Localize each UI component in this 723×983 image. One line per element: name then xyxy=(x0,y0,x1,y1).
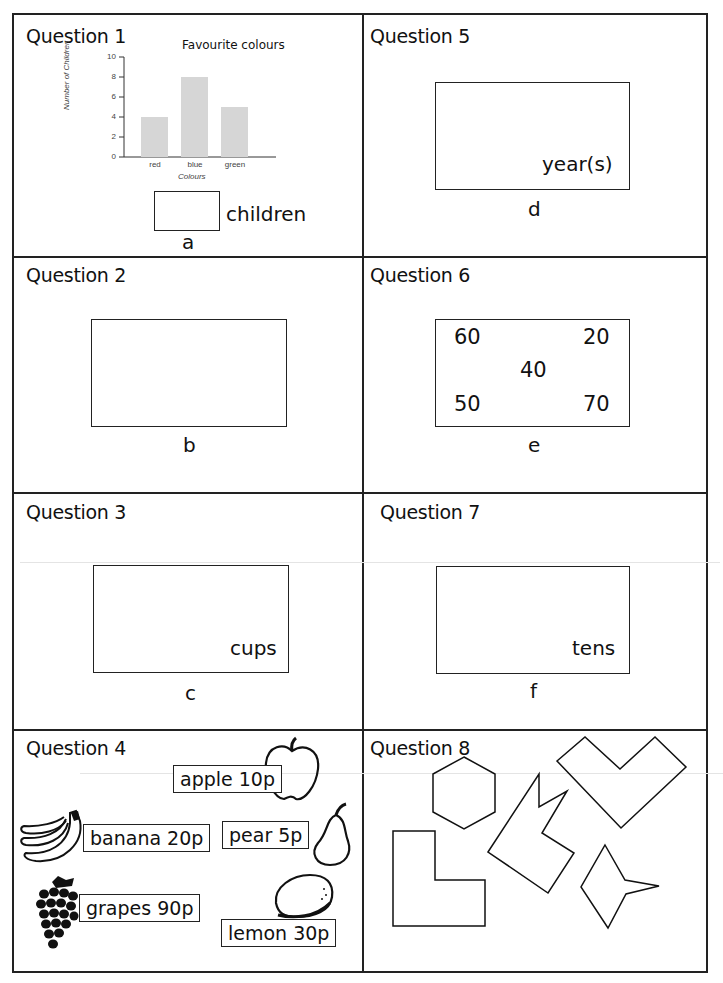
arrowhead-kite-shape xyxy=(581,845,659,928)
question-title: Question 6 xyxy=(370,264,470,286)
price-tag-apple: apple 10p xyxy=(173,765,282,793)
answer-letter: a xyxy=(182,230,194,254)
question-title: Question 4 xyxy=(26,737,126,759)
bar-green xyxy=(221,107,248,157)
answer-box-a[interactable] xyxy=(154,191,220,231)
question-1-cell: Question 1 Favourite colours Number of C… xyxy=(14,15,361,256)
grapes-icon xyxy=(36,876,82,952)
number-value: 20 xyxy=(583,325,610,349)
y-tick: 4 xyxy=(102,112,116,121)
unit-label: tens xyxy=(572,636,615,660)
shapes-canvas xyxy=(362,731,708,973)
x-tick: green xyxy=(220,160,250,169)
question-8-cell: Question 8 xyxy=(362,731,708,973)
y-tick: 6 xyxy=(102,92,116,101)
banana-icon xyxy=(18,809,88,867)
price-tag-banana: banana 20p xyxy=(83,824,210,852)
number-value: 50 xyxy=(454,392,481,416)
hexagon-shape xyxy=(433,757,495,829)
y-tick: 10 xyxy=(102,52,116,61)
unit-label: year(s) xyxy=(542,152,613,176)
question-6-cell: Question 6 60 20 40 50 70 e xyxy=(362,257,708,492)
l-shape xyxy=(393,831,485,926)
y-tick: 2 xyxy=(102,132,116,141)
x-axis-label: Colours xyxy=(178,172,206,181)
price-tag-pear: pear 5p xyxy=(222,821,309,849)
answer-box-b[interactable] xyxy=(91,319,287,427)
price-tag-lemon: lemon 30p xyxy=(221,919,336,947)
lemon-icon xyxy=(270,873,336,919)
answer-letter: b xyxy=(183,433,196,457)
question-title: Question 5 xyxy=(370,25,470,47)
price-tag-grapes: grapes 90p xyxy=(79,894,200,922)
y-tick: 8 xyxy=(102,72,116,81)
question-title: Question 2 xyxy=(26,264,126,286)
question-2-cell: Question 2 b xyxy=(14,257,361,492)
question-title: Question 7 xyxy=(380,501,480,523)
bar-blue xyxy=(181,77,208,157)
answer-letter: d xyxy=(528,197,541,221)
y-tick: 0 xyxy=(102,152,116,161)
number-value: 60 xyxy=(454,325,481,349)
pear-icon xyxy=(308,803,358,867)
notched-quadrilateral-shape xyxy=(488,774,574,893)
unit-label: children xyxy=(226,202,306,226)
bar-red xyxy=(141,117,168,157)
answer-letter: c xyxy=(185,681,196,705)
question-4-cell: Question 4 apple 10p banana 20p pear 5p … xyxy=(14,731,361,973)
question-5-cell: Question 5 year(s) d xyxy=(362,15,708,256)
number-value: 40 xyxy=(520,358,547,382)
unit-label: cups xyxy=(230,636,277,660)
x-tick: blue xyxy=(180,160,210,169)
question-7-cell: Question 7 tens f xyxy=(362,494,708,729)
answer-letter: f xyxy=(530,679,537,703)
number-value: 70 xyxy=(583,392,610,416)
question-3-cell: Question 3 cups c xyxy=(14,494,361,729)
x-tick: red xyxy=(140,160,170,169)
v-chevron-shape xyxy=(557,737,686,828)
answer-letter: e xyxy=(528,433,540,457)
question-title: Question 3 xyxy=(26,501,126,523)
